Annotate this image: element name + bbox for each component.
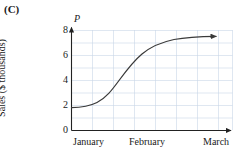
- y-tick-label-6: 6: [54, 50, 68, 60]
- sales-curve: [72, 36, 217, 107]
- y-tick-label-8: 8: [54, 25, 68, 35]
- y-axis-variable-label: P: [74, 13, 80, 24]
- y-tick-label-2: 2: [54, 100, 68, 110]
- chart-plot-area: [0, 0, 239, 157]
- x-tick-label-march: March: [203, 136, 229, 148]
- chart-figure: P 8 6 4 2 0 Sales ($ thousands) January …: [0, 0, 239, 157]
- y-tick-label-0: 0: [54, 125, 68, 135]
- x-tick-label-february: February: [129, 136, 165, 148]
- grid-vertical: [93, 30, 233, 130]
- grid-horizontal: [72, 31, 233, 119]
- y-tick-label-4: 4: [54, 75, 68, 85]
- y-axis-title: Sales ($ thousands): [0, 26, 8, 130]
- x-tick-label-january: January: [73, 136, 104, 148]
